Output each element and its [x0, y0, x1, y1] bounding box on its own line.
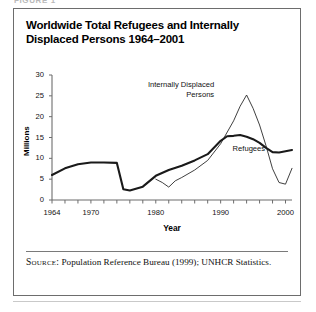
series-line-internally-displaced-persons [156, 95, 292, 187]
y-axis-tick-label: 20 [28, 112, 44, 121]
y-axis-tick-label: 0 [28, 195, 44, 204]
figure-caption: FIGURE 1 [14, 0, 56, 3]
chart-series [52, 95, 292, 190]
y-axis-tick-label: 5 [28, 174, 44, 183]
source-kicker: Source: [26, 256, 59, 267]
figure-root: FIGURE 1 Worldwide Total Refugees and In… [0, 0, 316, 312]
y-axis-tick-label: 25 [28, 91, 44, 100]
x-axis-title: Year [132, 223, 212, 233]
x-axis-tick-label: 1970 [76, 208, 106, 217]
chart-plot-area: 051015202530 19641970198019902000 Millio… [14, 9, 302, 297]
x-axis-tick-label: 2000 [271, 208, 301, 217]
figure-box: Worldwide Total Refugees and Internally … [13, 8, 301, 296]
source-divider [26, 251, 288, 252]
annotation-refugees: Refugees [233, 144, 266, 153]
y-axis-title: Millions [22, 126, 31, 156]
bottom-rule [13, 301, 301, 302]
x-axis-tick-label: 1964 [37, 208, 67, 217]
source-text: Population Reference Bureau (1999); UNHC… [59, 257, 271, 267]
annotation-internally-displaced-persons: Internally Displaced Persons [130, 80, 214, 99]
x-axis-tick-label: 1990 [206, 208, 236, 217]
x-axis-tick-label: 1980 [141, 208, 171, 217]
source-note: Source: Population Reference Bureau (199… [26, 256, 290, 269]
y-axis-tick-label: 30 [28, 70, 44, 79]
